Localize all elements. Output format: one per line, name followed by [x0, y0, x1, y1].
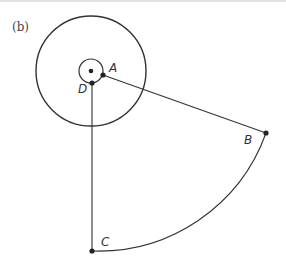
arc-b-c: [92, 133, 266, 251]
point-c: [89, 248, 94, 253]
center-point: [89, 69, 94, 74]
label-c: C: [101, 235, 110, 249]
label-b: B: [244, 133, 252, 147]
label-d: D: [78, 82, 87, 96]
point-d: [89, 80, 94, 85]
point-a: [100, 72, 105, 77]
point-b: [263, 130, 268, 135]
segment-a-b: [103, 75, 266, 133]
label-a: A: [108, 61, 117, 75]
figure-panel-b: (b) A D B C: [0, 0, 286, 272]
diagram-canvas: (b) A D B C: [0, 0, 286, 272]
panel-label: (b): [12, 20, 29, 34]
